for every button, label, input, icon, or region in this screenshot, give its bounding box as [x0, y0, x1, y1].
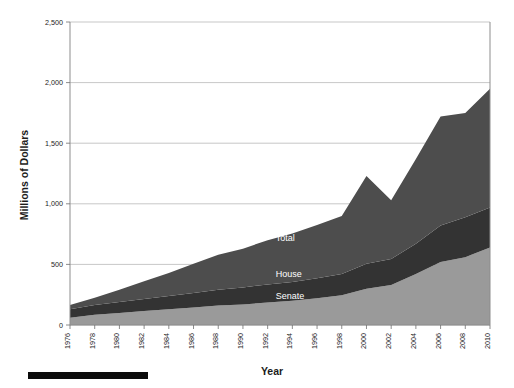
x-axis-title: Year	[261, 365, 283, 377]
x-axis-ticks: 1976197819801982198419861988199019921994…	[63, 325, 492, 349]
y-tick-label: 0	[59, 321, 63, 330]
x-tick-label: 1978	[88, 333, 97, 349]
x-tick-label: 2004	[409, 333, 418, 349]
x-tick-label: 2008	[458, 333, 467, 349]
x-tick-label: 1998	[335, 333, 344, 349]
y-tick-label: 1,000	[45, 199, 63, 208]
x-tick-label: 2002	[384, 333, 393, 349]
x-tick-label: 2000	[359, 333, 368, 349]
y-axis-ticks: 05001,0001,5002,0002,500	[45, 18, 70, 330]
y-tick-label: 2,500	[45, 18, 63, 27]
y-tick-label: 2,000	[45, 78, 63, 87]
x-tick-label: 1990	[236, 333, 245, 349]
x-tick-label: 1982	[137, 333, 146, 349]
series-label-house: House	[276, 269, 302, 279]
footer-rule-bar	[28, 372, 148, 379]
y-axis-title: Millions of Dollars	[18, 130, 30, 221]
stacked-area-bands	[70, 89, 490, 325]
x-tick-label: 1984	[162, 333, 171, 349]
x-tick-label: 1986	[187, 333, 196, 349]
x-tick-label: 1976	[63, 333, 72, 349]
x-tick-label: 1980	[112, 333, 121, 349]
series-label-senate: Senate	[276, 291, 305, 301]
x-tick-label: 2010	[483, 333, 492, 349]
x-tick-label: 1988	[211, 333, 220, 349]
x-tick-label: 1994	[285, 333, 294, 349]
area-chart-figure: 05001,0001,5002,0002,500 197619781980198…	[0, 0, 514, 388]
x-tick-label: 2006	[434, 333, 443, 349]
y-tick-label: 500	[51, 260, 63, 269]
y-tick-label: 1,500	[45, 139, 63, 148]
x-tick-label: 1992	[261, 333, 270, 349]
series-label-total: Total	[276, 233, 295, 243]
x-tick-label: 1996	[310, 333, 319, 349]
